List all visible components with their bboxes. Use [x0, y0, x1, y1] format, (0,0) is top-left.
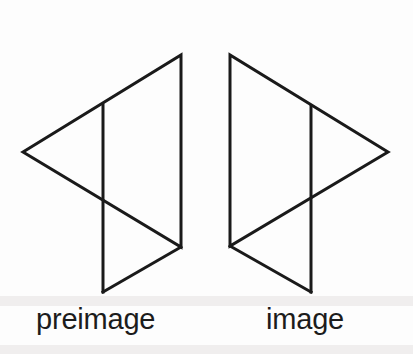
preimage-lower-diagonal-extension [103, 247, 181, 292]
image-label: image [266, 305, 344, 334]
image-triangle-outline [230, 55, 388, 246]
reflection-diagram [0, 0, 413, 354]
image-lower-diagonal-extension [230, 246, 311, 292]
geometry-figure-page: preimage image [0, 0, 413, 354]
image-shape [230, 55, 388, 292]
preimage-label: preimage [36, 305, 155, 334]
preimage-shape [23, 55, 181, 292]
